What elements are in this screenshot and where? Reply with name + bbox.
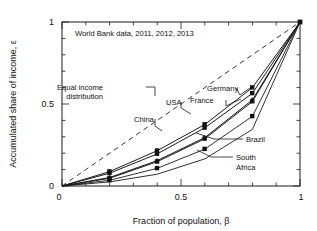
annotation-france: France — [190, 96, 214, 105]
y-axis-label: Accumulated share of income, ε — [8, 40, 18, 168]
chart-title: World Bank data, 2011, 2012, 2013 — [75, 29, 194, 38]
x-axis-label: Fraction of population, β — [133, 216, 230, 226]
chart-svg: 0 0.5 1 0 0.5 1 Fraction of population, … — [0, 0, 317, 231]
lorenz-curve-figure: 0 0.5 1 0 0.5 1 Fraction of population, … — [0, 0, 317, 231]
x-tick-label-0: 0 — [56, 192, 61, 202]
y-tick-label-1: 1 — [49, 17, 54, 27]
annotation-china: China — [134, 115, 155, 124]
y-tick-label-0.5: 0.5 — [41, 99, 54, 109]
annotation-germany: Germany — [207, 84, 238, 93]
annotation-south-africa-line1: South — [236, 153, 256, 162]
y-tick-label-0: 0 — [49, 181, 54, 191]
annotation-south-africa-line2: Africa — [236, 163, 256, 172]
annotation-equal-income-line2: distribution — [66, 92, 103, 101]
annotation-usa: USA — [166, 98, 183, 107]
annotation-equal-income-line1: Equal income — [57, 83, 103, 92]
annotation-brazil: Brazil — [246, 135, 265, 144]
marker-convergence-point — [298, 20, 303, 25]
x-tick-label-0.5: 0.5 — [175, 192, 188, 202]
x-tick-label-1: 1 — [298, 192, 303, 202]
